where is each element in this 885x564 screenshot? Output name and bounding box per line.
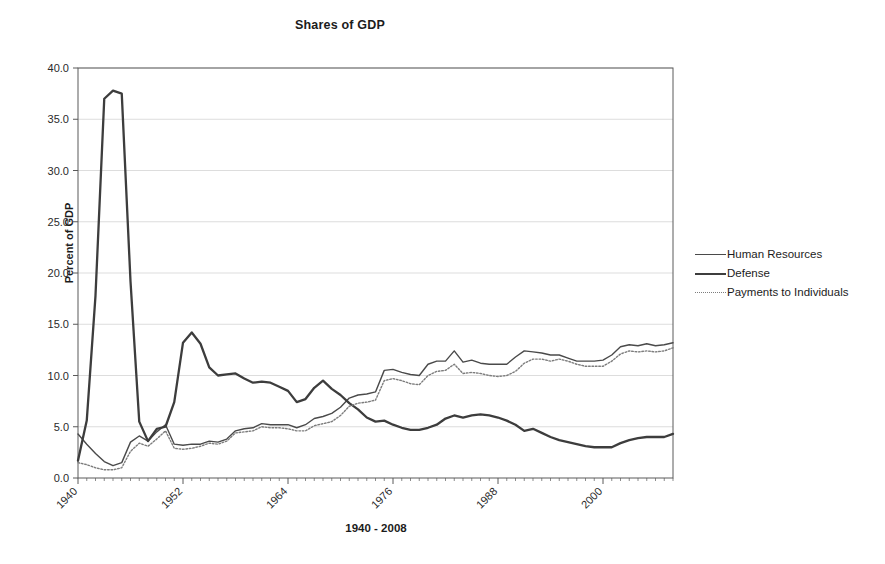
svg-text:10.0: 10.0 [48, 370, 69, 382]
legend-label-defense: Defense [727, 267, 770, 279]
svg-text:1976: 1976 [369, 485, 395, 511]
legend-item-payments-to-individuals: Payments to Individuals [693, 282, 879, 301]
svg-text:15.0: 15.0 [48, 318, 69, 330]
svg-text:1964: 1964 [264, 485, 290, 511]
svg-text:1940: 1940 [54, 485, 80, 511]
chart-legend: Human Resources Defense Payments to Indi… [693, 244, 879, 301]
svg-text:5.0: 5.0 [54, 421, 69, 433]
svg-text:35.0: 35.0 [48, 113, 69, 125]
svg-text:0.0: 0.0 [54, 472, 69, 484]
legend-item-human-resources: Human Resources [693, 244, 879, 263]
legend-line-icon-defense [693, 267, 727, 279]
svg-text:30.0: 30.0 [48, 165, 69, 177]
svg-text:40.0: 40.0 [48, 62, 69, 74]
x-axis-ticks: 194019521964197619882000 [54, 478, 673, 511]
legend-label-human-resources: Human Resources [727, 248, 822, 260]
legend-item-defense: Defense [693, 263, 879, 282]
svg-text:25.0: 25.0 [48, 216, 69, 228]
series-line-payments-to-individuals [78, 348, 673, 470]
svg-text:1952: 1952 [159, 485, 185, 511]
legend-line-icon-payments-to-individuals [693, 286, 727, 298]
y-axis-ticks: 0.05.010.015.020.025.030.035.040.0 [48, 62, 78, 484]
svg-text:2000: 2000 [579, 485, 605, 511]
chart-figure: Shares of GDP Percent of GDP 0.05.010.01… [0, 0, 885, 564]
series-line-defense [78, 91, 673, 461]
data-series [78, 91, 673, 470]
gridlines [78, 68, 673, 427]
legend-line-icon-human-resources [693, 248, 727, 260]
series-line-human-resources [78, 343, 673, 466]
svg-text:20.0: 20.0 [48, 267, 69, 279]
x-axis-label: 1940 - 2008 [78, 522, 674, 534]
legend-label-payments-to-individuals: Payments to Individuals [727, 286, 848, 298]
svg-text:1988: 1988 [474, 485, 500, 511]
